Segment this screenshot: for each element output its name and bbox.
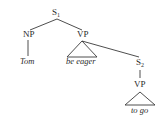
node-vp2: VP: [134, 79, 146, 89]
triangle-be-eager: [67, 41, 97, 57]
node-s2: S2: [136, 57, 144, 68]
leaf-be-eager: be eager: [66, 56, 96, 66]
node-s1: S1: [52, 7, 60, 18]
triangle-to-go: [125, 92, 155, 105]
node-np: NP: [23, 29, 35, 39]
syntax-tree: S1 NP Tom VP be eager S2 VP to go: [0, 0, 167, 126]
node-vp1: VP: [77, 29, 89, 39]
edge-vp-s2: [82, 41, 139, 57]
leaf-tom: Tom: [20, 56, 34, 66]
leaf-to-go: to go: [131, 105, 148, 115]
